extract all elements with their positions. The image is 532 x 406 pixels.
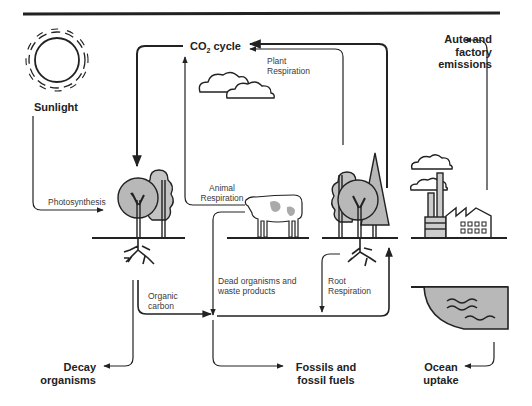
cloud-icon <box>199 72 274 98</box>
organic-carbon-line2: carbon <box>148 301 178 311</box>
dead-organisms-line2: waste products <box>218 286 296 296</box>
organic-carbon-line1: Organic <box>148 291 178 301</box>
auto-line1: Auto and <box>410 33 492 46</box>
co2-suffix: cycle <box>210 40 241 52</box>
roots-icon <box>348 238 376 266</box>
co2-cycle-label: CO2 cycle <box>190 40 241 56</box>
roots-icon <box>124 238 154 264</box>
co2-prefix: CO <box>190 40 207 52</box>
tree-icon <box>332 153 389 238</box>
ocean-line2: uptake <box>420 374 462 387</box>
dead-organisms-label: Dead organisms and waste products <box>218 276 296 296</box>
decay-organisms-label: Decay organisms <box>30 361 96 387</box>
fossils-line2: fossil fuels <box>288 374 364 387</box>
ocean-uptake-arrow <box>465 342 494 366</box>
fossils-arrow <box>213 320 283 366</box>
plant-respiration-line2: Respiration <box>267 66 310 76</box>
sunlight-label: Sunlight <box>34 101 78 114</box>
root-respiration-line1: Root <box>328 276 371 286</box>
co2-to-trees-arrow <box>137 46 183 166</box>
fossils-label: Fossils and fossil fuels <box>288 361 364 387</box>
cow-icon <box>245 195 302 237</box>
decay-line2: organisms <box>30 374 96 387</box>
title-rule <box>23 13 500 14</box>
photosynthesis-label: Photosynthesis <box>48 197 106 207</box>
auto-line3: emissions <box>410 58 492 71</box>
dead-organisms-arrow <box>213 212 245 315</box>
ocean-uptake-label: Ocean uptake <box>420 361 462 387</box>
fossils-line1: Fossils and <box>288 361 364 374</box>
plant-respiration-label: Plant Respiration <box>267 56 310 76</box>
auto-factory-emissions-label: Auto and factory emissions <box>410 33 492 71</box>
photosynthesis-arrow <box>33 116 103 210</box>
root-respiration-label: Root Respiration <box>328 276 371 296</box>
factory-icon <box>411 155 491 238</box>
organic-carbon-label: Organic carbon <box>148 291 178 311</box>
decay-arrow <box>104 280 133 366</box>
plant-respiration-line1: Plant <box>267 56 310 66</box>
root-respiration-line2: Respiration <box>328 286 371 296</box>
sun-icon <box>26 29 88 91</box>
decay-line1: Decay <box>30 361 96 374</box>
tree-icon <box>118 170 173 238</box>
auto-line2: factory <box>410 46 492 59</box>
animal-respiration-line1: Animal <box>197 183 247 193</box>
animal-respiration-label: Animal Respiration <box>197 183 247 203</box>
ocean-icon <box>411 287 508 329</box>
dead-organisms-line1: Dead organisms and <box>218 276 296 286</box>
animal-respiration-line2: Respiration <box>197 193 247 203</box>
ocean-line1: Ocean <box>420 361 462 374</box>
